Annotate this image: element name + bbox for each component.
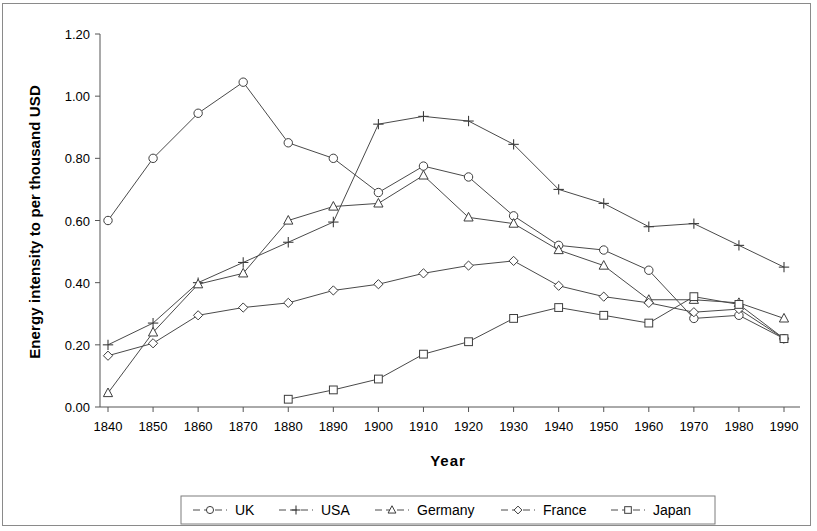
x-axis-tick-label: 1980 (724, 419, 753, 434)
data-point-france-1880 (284, 298, 293, 307)
legend-marker-square (625, 507, 632, 514)
data-point-france-1920 (464, 261, 473, 270)
y-axis-tick-label: 0.60 (65, 214, 90, 229)
data-point-france-1940 (554, 281, 563, 290)
data-point-japan-1950 (600, 311, 608, 319)
data-point-japan-1980 (735, 301, 743, 309)
y-axis-title: Energy intensity to per thousand USD (26, 85, 43, 359)
data-point-japan-1890 (329, 386, 337, 394)
legend-label-japan: Japan (653, 502, 691, 518)
x-axis-tick-label: 1850 (139, 419, 168, 434)
legend-label-germany: Germany (417, 502, 475, 518)
data-point-uk-1920 (464, 173, 472, 181)
series-line-japan (288, 297, 784, 400)
y-axis-tick-label: 0.20 (65, 338, 90, 353)
series-france (103, 256, 788, 360)
legend-label-france: France (543, 502, 587, 518)
x-axis-tick-label: 1940 (544, 419, 573, 434)
legend-label-uk: UK (235, 502, 255, 518)
legend: UKUSAGermanyFranceJapan (181, 496, 715, 524)
legend-label-usa: USA (321, 502, 350, 518)
y-axis-tick-label: 1.20 (65, 27, 90, 42)
y-axis-tick-label: 0.40 (65, 276, 90, 291)
y-axis-tick-label: 0.00 (65, 400, 90, 415)
data-point-uk-1950 (600, 246, 608, 254)
data-point-france-1930 (509, 256, 518, 265)
series-line-usa (108, 116, 784, 344)
x-axis-tick-label: 1840 (94, 419, 123, 434)
data-point-uk-1840 (104, 216, 112, 224)
data-point-japan-1900 (375, 375, 383, 383)
x-axis-tick-label: 1970 (679, 419, 708, 434)
x-axis-tick-label: 1920 (454, 419, 483, 434)
data-point-france-1890 (329, 286, 338, 295)
x-axis-tick-label: 1910 (409, 419, 438, 434)
data-point-japan-1910 (420, 350, 428, 358)
data-point-uk-1870 (239, 78, 247, 86)
data-point-uk-1860 (194, 109, 202, 117)
x-axis-tick-label: 1890 (319, 419, 348, 434)
data-point-uk-1890 (329, 154, 337, 162)
data-point-france-1900 (374, 280, 383, 289)
series-line-france (108, 261, 784, 356)
data-point-japan-1970 (690, 293, 698, 301)
data-point-japan-1880 (284, 395, 292, 403)
x-axis-tick-label: 1900 (364, 419, 393, 434)
series-japan (284, 293, 788, 403)
data-point-germany-1920 (464, 212, 473, 221)
y-axis-tick-label: 0.80 (65, 151, 90, 166)
data-point-uk-1880 (284, 139, 292, 147)
data-point-uk-1960 (645, 266, 653, 274)
series-line-germany (108, 175, 784, 393)
data-point-germany-1900 (374, 198, 383, 207)
data-point-japan-1920 (465, 338, 473, 346)
data-point-germany-1910 (419, 170, 428, 179)
data-point-uk-1910 (419, 162, 427, 170)
x-axis-title: Year (430, 452, 466, 469)
data-point-japan-1930 (510, 315, 518, 323)
series-uk (104, 78, 788, 343)
x-axis-tick-label: 1930 (499, 419, 528, 434)
data-point-uk-1900 (374, 188, 382, 196)
data-point-france-1870 (239, 303, 248, 312)
series-layer (103, 78, 789, 403)
line-chart: 0.000.200.400.600.801.001.20184018501860… (0, 0, 817, 531)
x-axis-tick-label: 1870 (229, 419, 258, 434)
x-axis-tick-label: 1860 (184, 419, 213, 434)
data-point-france-1850 (148, 339, 157, 348)
data-point-uk-1850 (149, 154, 157, 162)
x-axis-tick-label: 1950 (589, 419, 618, 434)
data-point-japan-1940 (555, 304, 563, 312)
data-point-france-1950 (599, 292, 608, 301)
x-axis-tick-label: 1960 (634, 419, 663, 434)
data-point-france-1910 (419, 269, 428, 278)
x-axis-tick-label: 1880 (274, 419, 303, 434)
data-point-japan-1960 (645, 319, 653, 327)
chart-svg: 0.000.200.400.600.801.001.20184018501860… (0, 0, 817, 531)
data-point-france-1860 (194, 311, 203, 320)
y-axis-tick-label: 1.00 (65, 89, 90, 104)
data-point-france-1840 (103, 351, 112, 360)
axes: 0.000.200.400.600.801.001.20184018501860… (65, 27, 800, 434)
series-germany (103, 170, 788, 396)
legend-marker-circle (206, 506, 213, 513)
x-axis-tick-label: 1990 (770, 419, 799, 434)
data-point-japan-1990 (780, 335, 788, 343)
